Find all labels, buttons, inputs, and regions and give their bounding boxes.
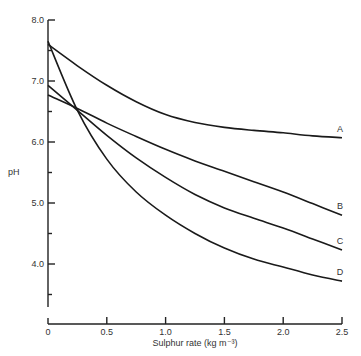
- ph-vs-sulphur-chart: 8.0 7.0 6.0 5.0 4.0 0 0.5 1.0 1.5 2.0 2.…: [0, 0, 361, 356]
- curve-b: [48, 95, 342, 215]
- y-tick-labels: 8.0 7.0 6.0 5.0 4.0: [31, 15, 44, 269]
- x-tick-label: 0: [45, 327, 50, 337]
- curve-c: [48, 85, 342, 250]
- y-tick-label: 4.0: [31, 259, 44, 269]
- y-tick-label: 7.0: [31, 76, 44, 86]
- y-axis: [48, 20, 55, 307]
- x-tick-label: 2.0: [277, 327, 290, 337]
- y-tick-label: 8.0: [31, 15, 44, 25]
- series-labels: ABCD: [337, 124, 344, 277]
- x-axis-label: Sulphur rate (kg m⁻³): [152, 338, 237, 348]
- series-label-c: C: [337, 236, 344, 246]
- x-tick-label: 1.0: [159, 327, 172, 337]
- x-tick-label: 1.5: [218, 327, 231, 337]
- x-tick-label: 2.5: [336, 327, 349, 337]
- x-tick-label: 0.5: [101, 327, 114, 337]
- series-label-b: B: [337, 201, 343, 211]
- y-axis-label: pH: [8, 167, 20, 177]
- series-label-a: A: [337, 124, 343, 134]
- series-label-d: D: [337, 267, 344, 277]
- y-tick-label: 5.0: [31, 198, 44, 208]
- x-tick-labels: 0 0.5 1.0 1.5 2.0 2.5: [45, 327, 348, 337]
- x-axis: [48, 317, 342, 324]
- y-tick-label: 6.0: [31, 137, 44, 147]
- series-curves: [48, 41, 342, 281]
